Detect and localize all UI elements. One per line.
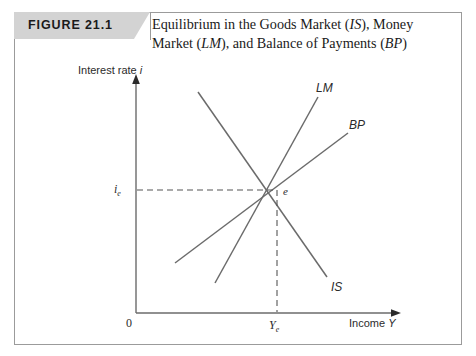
x-axis-label-symbol: Y <box>388 317 395 329</box>
x-axis-tick-ye: Ye <box>269 318 279 334</box>
x-tick-subscript: e <box>276 325 280 334</box>
y-axis-label-symbol: i <box>140 64 142 76</box>
is-curve-label: IS <box>331 280 342 294</box>
equilibrium-point-label: e <box>283 185 288 197</box>
x-axis-label-text: Income <box>349 317 388 329</box>
x-axis-arrowhead <box>391 309 401 317</box>
figure-container: FIGURE 21.1 Equilibrium in the Goods Mar… <box>0 0 476 356</box>
bp-curve <box>175 133 348 263</box>
x-axis-label: Income Y <box>349 317 395 329</box>
lm-curve-label: LM <box>316 81 333 95</box>
origin-label: 0 <box>126 316 132 331</box>
bp-curve-label: BP <box>349 118 365 132</box>
y-axis-label-text: Interest rate <box>78 64 140 76</box>
y-tick-subscript: e <box>117 189 121 198</box>
is-curve <box>198 92 327 277</box>
y-axis-tick-ie: ie <box>114 182 121 198</box>
x-tick-symbol: Y <box>269 318 276 332</box>
chart-plot-area <box>0 0 476 356</box>
x-axis <box>136 309 401 317</box>
y-axis <box>132 74 140 313</box>
y-axis-label: Interest rate i <box>78 64 142 76</box>
